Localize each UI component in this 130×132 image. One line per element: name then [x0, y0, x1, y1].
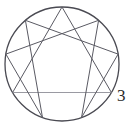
enneagram-diagram	[0, 0, 130, 132]
enneagram-figure: 3	[0, 0, 130, 132]
point-label-3: 3	[117, 86, 130, 106]
enneagram-outer-circle	[5, 7, 119, 121]
